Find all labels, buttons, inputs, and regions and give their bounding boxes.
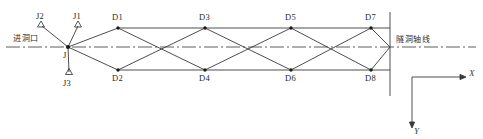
label-node-D7: D7 [365,13,376,22]
diagram-canvas: J1 J2 J3 J D1 D3 D5 D7 D2 D4 D6 D8 进洞口 隧… [0,0,483,139]
node-dot-D7 [369,26,372,29]
label-node-D5: D5 [285,13,296,22]
node-dot-D3 [203,26,206,29]
label-control-point-J1: J1 [73,12,81,21]
label-node-D8: D8 [365,74,376,83]
node-dot-D1 [116,26,119,29]
node-dots [66,26,373,71]
label-station-J: J [63,51,67,60]
node-dot-D8 [369,68,372,71]
label-node-D3: D3 [199,13,210,22]
triangle-marker-J2 [38,21,45,27]
label-node-D1: D1 [112,13,123,22]
label-node-D2: D2 [112,74,123,83]
control-point-markers [38,21,82,75]
node-dot-D4 [203,68,206,71]
label-axis-x: X [469,69,475,78]
ray-J-to-J2 [42,26,68,47]
label-control-point-J3: J3 [63,79,71,88]
node-dot-D2 [116,68,119,71]
diagonal-web-members [68,28,390,70]
axis-x-arrowhead [460,74,466,79]
node-dot-D5 [289,26,292,29]
label-tunnel-centerline: 隧洞轴线 [396,36,430,44]
label-axis-y: Y [414,127,419,136]
node-dot-J [66,45,70,49]
coordinate-axes [409,74,466,128]
label-node-D4: D4 [199,74,210,83]
node-dot-D6 [289,68,292,71]
label-node-D6: D6 [285,74,296,83]
label-tunnel-entrance: 进洞口 [13,35,39,43]
label-control-point-J2: J2 [36,12,44,21]
